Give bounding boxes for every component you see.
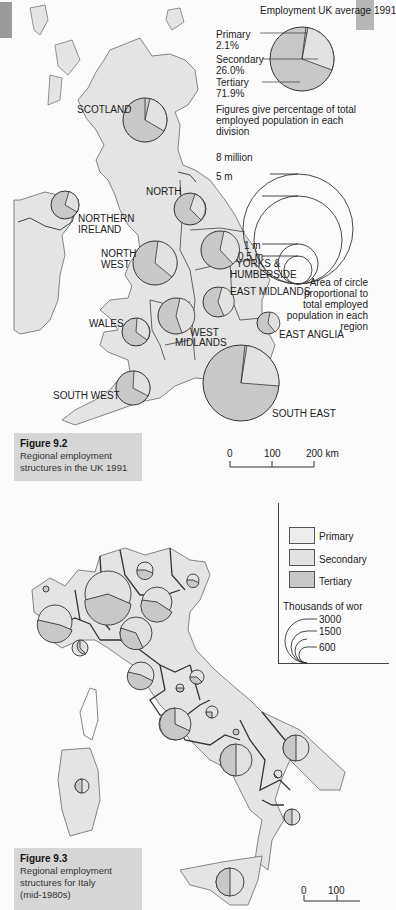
pie-emilia-romagna (120, 617, 152, 650)
italy-legend-size-title: Thousands of wor (283, 601, 363, 612)
uk-figure-number: Figure 9.2 (20, 438, 136, 450)
italy-legend: Primary Secondary Tertiary Thousands of … (278, 503, 389, 664)
italy-legend-1500: 1500 (319, 626, 341, 637)
pie-east-anglia (257, 312, 280, 334)
italy-caption-line-1: Regional employment (20, 865, 136, 877)
uk-scale-200: 200 km (306, 448, 339, 459)
pie-marche (190, 670, 204, 684)
italy-legend-tertiary: Tertiary (319, 576, 352, 587)
italy-scale-0: 0 (301, 885, 307, 896)
uk-legend-title: Employment UK average 1991 (260, 5, 396, 16)
legend-scale-8m: 8 million (216, 152, 253, 163)
pie-toscana (127, 662, 154, 690)
label-south-west: SOUTH WEST (53, 390, 120, 401)
pie-abruzzo (206, 706, 218, 718)
pie-wales (122, 318, 150, 346)
pie-south-east (203, 345, 279, 421)
uk-caption-line-1: Regional employment (20, 450, 136, 462)
legend-average-pie (260, 27, 334, 91)
legend-primary-label: Primary (216, 29, 250, 40)
pie-friuli (187, 574, 199, 588)
italy-figure-caption: Figure 9.3 Regional employment structure… (14, 848, 142, 910)
pie-north-west (133, 241, 177, 285)
pie-liguria (72, 640, 88, 656)
pie-molise (233, 729, 239, 735)
legend-tertiary-value: 71.9% (216, 88, 244, 99)
pie-basilicata (274, 770, 282, 778)
italy-legend-3000: 3000 (319, 614, 341, 625)
pie-sardegna (75, 779, 89, 793)
italy-caption-line-2: structures for Italy (20, 877, 136, 889)
uk-scale-0: 0 (227, 448, 233, 459)
pie-valle-daosta (43, 586, 49, 592)
italy-legend-secondary: Secondary (319, 554, 367, 565)
uk-figure-caption: Figure 9.2 Regional employment structure… (14, 433, 142, 481)
pie-northern-ireland (51, 191, 79, 219)
legend-scale-1m: 1 m (244, 240, 261, 251)
pie-calabria (284, 809, 300, 825)
pie-lazio (159, 708, 191, 740)
pie-north (174, 193, 206, 225)
pie-veneto (141, 587, 172, 622)
pie-sicilia (216, 868, 244, 896)
label-yorks-2: HUMBERSIDE (230, 269, 297, 280)
label-northern-ireland-1: NORTHERN (78, 213, 134, 224)
pie-south-west (116, 371, 150, 405)
pie-umbria (176, 684, 184, 692)
pie-yorks-humberside (201, 231, 240, 269)
label-west-midlands-2: MIDLANDS (175, 337, 227, 348)
pie-campania (220, 744, 252, 776)
label-scotland: SCOTLAND (77, 104, 131, 115)
italy-figure-number: Figure 9.3 (20, 853, 136, 865)
italy-legend-600: 600 (319, 642, 336, 653)
italy-legend-primary: Primary (319, 531, 353, 542)
legend-primary-value: 2.1% (216, 40, 239, 51)
legend-scale-5m: 5 m (216, 171, 233, 182)
pie-lombardia (85, 571, 131, 625)
legend-secondary-label: Secondary (216, 54, 264, 65)
label-north-west-1: NORTH (101, 248, 136, 259)
legend-note: Figures give percentage of total employe… (216, 104, 366, 137)
uk-scale-bar (230, 461, 314, 467)
pie-piemonte (37, 605, 72, 643)
swatch-primary (289, 527, 315, 544)
swatch-secondary (289, 549, 315, 566)
label-wales: WALES (89, 318, 124, 329)
pie-trentino (137, 562, 153, 580)
pie-puglia (283, 735, 309, 761)
legend-tertiary-label: Tertiary (216, 77, 249, 88)
italy-caption-line-3: (mid-1980s) (20, 889, 136, 901)
label-yorks-1: YORKS & (236, 258, 280, 269)
uk-scale-100: 100 (264, 448, 281, 459)
label-north-west-2: WEST (101, 259, 130, 270)
label-south-east: SOUTH EAST (272, 408, 336, 419)
uk-caption-line-2: structures in the UK 1991 (20, 462, 136, 474)
italy-scale-100: 100 (328, 885, 345, 896)
label-north: NORTH (146, 186, 181, 197)
legend-secondary-value: 26.0% (216, 65, 244, 76)
label-northern-ireland-2: IRELAND (78, 224, 121, 235)
swatch-tertiary (289, 571, 315, 588)
label-east-anglia: EAST ANGLIA (279, 329, 344, 340)
label-east-midlands: EAST MIDLANDS (230, 286, 310, 297)
